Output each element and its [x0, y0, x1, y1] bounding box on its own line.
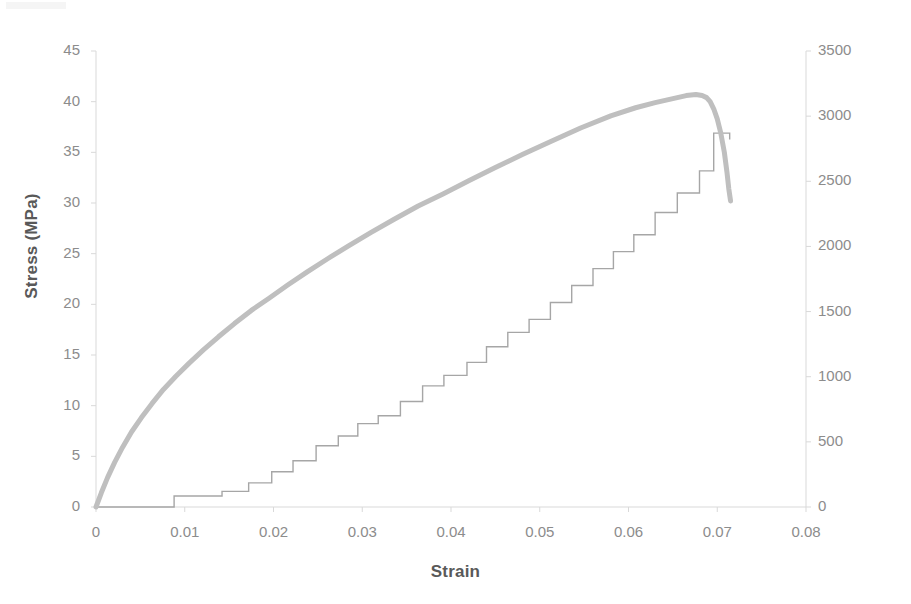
x-axis-tick-label: 0.01 [155, 523, 215, 540]
left-axis-tick-label: 0 [50, 497, 80, 514]
chart-canvas [0, 0, 911, 604]
left-axis-tick-label: 15 [50, 345, 80, 362]
x-axis-tick-label: 0.05 [510, 523, 570, 540]
right-axis-tick-label: 1000 [818, 367, 864, 384]
right-axis-tick-label: 2000 [818, 236, 864, 253]
right-axis-tick-label: 500 [818, 432, 864, 449]
stress-strain-curve [96, 95, 731, 507]
left-axis-tick-label: 35 [50, 142, 80, 159]
x-axis-tick-label: 0.07 [687, 523, 747, 540]
left-axis-tick-label: 25 [50, 244, 80, 261]
axis-lines [96, 51, 806, 507]
left-axis-tick-label: 30 [50, 193, 80, 210]
left-axis-tick-label: 5 [50, 446, 80, 463]
left-axis-tick-label: 10 [50, 396, 80, 413]
bottom-axis-ticks [96, 507, 806, 512]
right-axis-tick-label: 3500 [818, 41, 864, 58]
x-axis-tick-label: 0.03 [332, 523, 392, 540]
x-axis-tick-label: 0 [66, 523, 126, 540]
x-axis-tick-label: 0.02 [244, 523, 304, 540]
x-axis-tick-label: 0.08 [776, 523, 836, 540]
right-axis-ticks [806, 51, 811, 507]
right-axis-tick-label: 1500 [818, 302, 864, 319]
right-axis-tick-label: 0 [818, 497, 864, 514]
left-axis-ticks [91, 51, 96, 507]
left-axis-tick-label: 20 [50, 294, 80, 311]
left-axis-tick-label: 45 [50, 41, 80, 58]
x-axis-title: Strain [0, 562, 911, 582]
left-axis-tick-label: 40 [50, 92, 80, 109]
x-axis-tick-label: 0.04 [421, 523, 481, 540]
x-axis-tick-label: 0.06 [599, 523, 659, 540]
left-axis-title: Stress (MPa) [22, 156, 42, 336]
right-axis-tick-label: 3000 [818, 106, 864, 123]
stress-strain-beats-chart: Stress (MPa) Cumulative number of beats … [0, 0, 911, 604]
cumulative-beats-step-line [96, 133, 730, 507]
right-axis-tick-label: 2500 [818, 171, 864, 188]
